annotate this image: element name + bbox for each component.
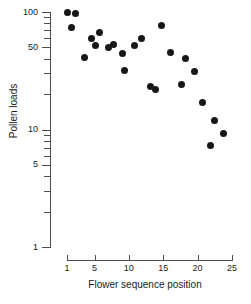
data-point — [121, 67, 128, 74]
data-point — [92, 42, 99, 49]
data-point — [220, 130, 227, 137]
data-point — [96, 29, 103, 36]
data-point — [152, 86, 159, 93]
data-points-layer — [0, 0, 251, 304]
data-point — [88, 35, 95, 42]
data-point — [119, 50, 126, 57]
data-point — [199, 99, 206, 106]
data-point — [191, 68, 198, 75]
data-point — [167, 49, 174, 56]
scatter-plot-figure: 151050100 1510152025 Pollen loads Flower… — [0, 0, 251, 304]
data-point — [158, 22, 165, 29]
data-point — [207, 142, 214, 149]
data-point — [211, 117, 218, 124]
data-point — [182, 55, 189, 62]
data-point — [72, 10, 79, 17]
data-point — [131, 42, 138, 49]
data-point — [68, 24, 75, 31]
y-axis-title: Pollen loads — [9, 61, 19, 161]
data-point — [178, 81, 185, 88]
data-point — [138, 35, 145, 42]
plot-area: 151050100 1510152025 Pollen loads Flower… — [0, 0, 251, 304]
data-point — [81, 54, 88, 61]
data-point — [64, 9, 71, 16]
data-point — [110, 41, 117, 48]
x-axis-title: Flower sequence position — [50, 280, 240, 290]
